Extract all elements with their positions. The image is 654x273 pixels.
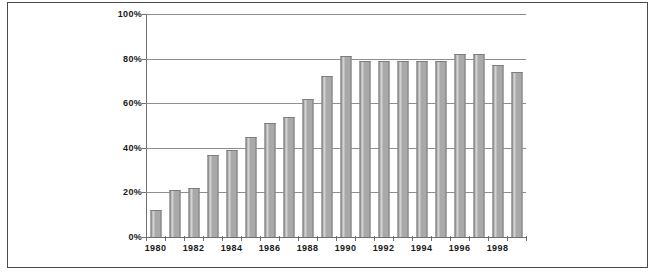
x-axis-tick-label-1982: 1982 [183,243,205,254]
bar-slot [488,14,507,237]
x-axis-tick-label-1980: 1980 [145,243,167,254]
x-axis-tick-label-1992: 1992 [373,243,395,254]
bar-1982[interactable] [188,188,199,237]
bar-slot [393,14,412,237]
bar-highlight [513,73,515,237]
bar-1996[interactable] [454,54,465,237]
bar-1993[interactable] [397,61,408,237]
y-axis-tick-label: 100% [106,10,142,19]
x-axis-tick-mark [317,236,318,241]
y-axis-tick-mark [142,192,146,193]
bar-1986[interactable] [264,123,275,237]
bar-slot [146,14,165,237]
bar-1980[interactable] [150,210,161,237]
x-axis-tick-mark [222,236,223,241]
x-axis-tick-mark [374,236,375,241]
bar-highlight [247,138,249,237]
x-axis-tick-marks [146,236,526,241]
bar-highlight [304,100,306,237]
bar-highlight [190,189,192,237]
bar-1983[interactable] [207,155,218,238]
bar-highlight [266,124,268,237]
bar-highlight [342,57,344,237]
bar-highlight [418,62,420,237]
bar-1988[interactable] [302,99,313,237]
bar-highlight [494,66,496,237]
x-axis-tick-label-1996: 1996 [449,243,471,254]
bar-highlight [380,62,382,237]
bar-1990[interactable] [340,56,351,237]
bar-slot [431,14,450,237]
x-axis-tick-mark [298,236,299,241]
x-axis-tick-mark [412,236,413,241]
x-axis-tick-label-1984: 1984 [221,243,243,254]
x-axis-tick-label-1988: 1988 [297,243,319,254]
bar-1981[interactable] [169,190,180,237]
bar-1994[interactable] [416,61,427,237]
bar-1992[interactable] [378,61,389,237]
x-axis-tick-label-1998: 1998 [487,243,509,254]
x-axis-tick-mark [165,236,166,241]
bars-group [146,14,526,237]
bar-slot [279,14,298,237]
bar-slot [222,14,241,237]
bar-1997[interactable] [473,54,484,237]
bar-highlight [361,62,363,237]
y-axis-tick-label: 60% [106,99,142,108]
bar-slot [165,14,184,237]
bar-highlight [209,156,211,238]
x-axis-tick-mark [279,236,280,241]
bar-1989[interactable] [321,76,332,237]
bar-1998[interactable] [492,65,503,237]
bar-1984[interactable] [226,150,237,237]
x-axis-tick-mark [393,236,394,241]
x-axis-tick-mark [336,236,337,241]
x-axis-tick-label-1986: 1986 [259,243,281,254]
bar-highlight [285,118,287,237]
x-axis-tick-mark [450,236,451,241]
plot-area [146,14,526,237]
bar-1995[interactable] [435,61,446,237]
y-axis-tick-labels: 100%80%60%40%20%0% [104,14,142,237]
bar-highlight [475,55,477,237]
y-axis-tick-label: 80% [106,55,142,64]
x-axis-tick-mark [260,236,261,241]
x-axis-tick-label-1990: 1990 [335,243,357,254]
x-axis-tick-mark [507,236,508,241]
bar-1999[interactable] [511,72,522,237]
bar-slot [317,14,336,237]
x-axis-tick-mark [488,236,489,241]
y-axis-tick-mark [142,59,146,60]
bar-slot [241,14,260,237]
figure-border: 100%80%60%40%20%0% 198019821984198619881… [7,2,648,268]
y-axis-tick-label: 20% [106,188,142,197]
x-axis-tick-mark [241,236,242,241]
bar-1985[interactable] [245,137,256,237]
x-axis-tick-labels: 1980198219841986198819901992199419961998 [146,243,526,257]
bar-highlight [171,191,173,237]
bar-highlight [456,55,458,237]
x-axis-tick-mark [184,236,185,241]
x-axis-tick-mark [355,236,356,241]
bar-highlight [228,151,230,237]
bar-1987[interactable] [283,117,294,237]
x-axis-tick-mark [203,236,204,241]
bar-slot [203,14,222,237]
bar-slot [184,14,203,237]
bar-highlight [152,211,154,237]
bar-slot [260,14,279,237]
x-axis-tick-mark [526,236,527,241]
bar-highlight [437,62,439,237]
bar-slot [336,14,355,237]
bar-slot [450,14,469,237]
x-axis-tick-mark [146,236,147,241]
bar-slot [298,14,317,237]
y-axis-tick-mark [142,103,146,104]
y-axis-tick-mark [142,14,146,15]
x-axis-tick-label-1994: 1994 [411,243,433,254]
bar-1991[interactable] [359,61,370,237]
y-axis-tick-mark [142,148,146,149]
bar-slot [469,14,488,237]
bar-highlight [399,62,401,237]
bar-slot [412,14,431,237]
